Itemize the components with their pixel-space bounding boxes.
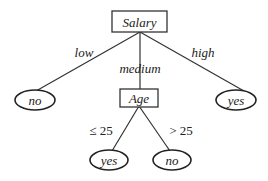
leaf-age-gt25-no: no bbox=[153, 150, 191, 170]
decision-tree-diagram: Salary low medium high ≤ 25 > 25 no yes … bbox=[0, 0, 268, 181]
node-salary-label: Salary bbox=[123, 15, 157, 30]
node-age: Age bbox=[120, 89, 158, 107]
edge-label-gt25: > 25 bbox=[169, 123, 193, 138]
leaf-low-no: no bbox=[15, 90, 55, 110]
leaf-high-label: yes bbox=[226, 93, 245, 108]
edge-label-le25: ≤ 25 bbox=[89, 123, 112, 138]
edge-age-le25 bbox=[112, 106, 139, 151]
leaf-low-label: no bbox=[29, 93, 43, 108]
leaf-high-yes: yes bbox=[216, 90, 256, 110]
edge-label-medium: medium bbox=[119, 61, 160, 76]
node-age-label: Age bbox=[128, 91, 149, 106]
node-salary: Salary bbox=[112, 11, 167, 32]
leaf-age-le25-label: yes bbox=[99, 153, 118, 168]
leaf-age-gt25-label: no bbox=[166, 153, 180, 168]
edge-age-gt25 bbox=[139, 106, 170, 151]
leaf-age-le25-yes: yes bbox=[90, 150, 128, 170]
edge-label-low: low bbox=[75, 45, 94, 60]
edge-label-high: high bbox=[191, 45, 214, 60]
